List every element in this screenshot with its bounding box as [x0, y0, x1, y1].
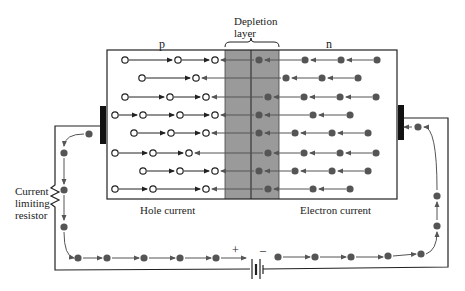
- hole: [139, 75, 145, 81]
- p-region-label: p: [159, 38, 165, 50]
- depletion-layer: [225, 38, 279, 199]
- circuit-flow-arrow: [64, 134, 84, 146]
- hole: [167, 94, 173, 100]
- resistor-label-line2: limiting: [15, 197, 50, 209]
- electron: [264, 93, 271, 100]
- electron: [354, 74, 361, 81]
- circuit-electron: [60, 223, 67, 230]
- circuit-flow-arrow: [426, 232, 437, 254]
- wire-right: [263, 118, 448, 269]
- hole: [112, 150, 118, 156]
- electron: [300, 149, 307, 156]
- electron: [255, 167, 262, 174]
- circuit-electron: [60, 186, 67, 193]
- right-terminal: [398, 105, 404, 140]
- electron: [337, 56, 344, 63]
- circuit-electron: [384, 252, 391, 259]
- n-region-label: n: [326, 38, 332, 50]
- circuit-electron: [140, 254, 147, 261]
- circuit-electron: [417, 250, 424, 257]
- circuit-electron: [433, 222, 440, 229]
- electron: [255, 129, 262, 136]
- hole: [122, 94, 128, 100]
- circuit-electron: [433, 192, 440, 199]
- hole: [203, 130, 209, 136]
- electron: [336, 93, 343, 100]
- electron: [364, 129, 371, 136]
- battery-minus-sign: –: [260, 244, 266, 256]
- left-terminal: [100, 106, 106, 144]
- resistor-label-line3: resistor: [15, 209, 47, 221]
- pn-junction-diagram: p n Depletion layer Hole current Electro…: [0, 0, 465, 291]
- hole-current-label: Hole current: [140, 204, 195, 216]
- electron: [372, 93, 379, 100]
- hole: [150, 186, 156, 192]
- hole: [122, 57, 128, 63]
- circuit-flow-arrow: [64, 232, 74, 258]
- electron: [318, 74, 325, 81]
- electron: [301, 56, 308, 63]
- electron: [346, 185, 353, 192]
- electron: [300, 93, 307, 100]
- circuit-electron: [347, 253, 354, 260]
- electron: [364, 167, 371, 174]
- depletion-brace: [225, 38, 279, 47]
- resistor-label-line1: Current: [15, 185, 49, 197]
- circuit-electron: [176, 254, 183, 261]
- depletion-label-line1: Depletion: [234, 15, 277, 27]
- circuit-electron: [311, 253, 318, 260]
- hole: [112, 186, 118, 192]
- depletion-region: [225, 50, 279, 199]
- electron: [328, 167, 335, 174]
- electron: [372, 149, 379, 156]
- electron-current-label: Electron current: [300, 204, 371, 216]
- circuit-flow-arrow: [393, 254, 416, 256]
- electron: [255, 111, 262, 118]
- battery-plus-sign: +: [232, 244, 239, 256]
- electron: [264, 185, 271, 192]
- hole: [140, 168, 146, 174]
- hole: [212, 168, 218, 174]
- hole: [186, 150, 192, 156]
- electron: [309, 111, 316, 118]
- hole: [168, 130, 174, 136]
- electron: [255, 56, 262, 63]
- hole: [193, 75, 199, 81]
- electron: [328, 129, 335, 136]
- hole: [212, 112, 218, 118]
- circuit-electron: [74, 254, 81, 261]
- hole: [140, 112, 146, 118]
- electron: [373, 56, 380, 63]
- hole: [175, 57, 181, 63]
- hole: [177, 112, 183, 118]
- electron: [282, 74, 289, 81]
- circuit-electron: [60, 149, 67, 156]
- electron: [291, 167, 298, 174]
- hole: [150, 150, 156, 156]
- electron: [309, 185, 316, 192]
- electron: [336, 149, 343, 156]
- hole: [131, 130, 137, 136]
- circuit-electron: [103, 254, 110, 261]
- hole: [112, 112, 118, 118]
- depletion-label-line2: layer: [234, 27, 256, 39]
- electron: [264, 149, 271, 156]
- hole: [203, 94, 209, 100]
- circuit-electron: [414, 123, 421, 130]
- circuit-electron: [212, 254, 219, 261]
- circuit-electron: [85, 130, 92, 137]
- hole: [212, 57, 218, 63]
- hole: [203, 186, 209, 192]
- wire-left-bottom: [51, 126, 250, 270]
- hole: [177, 168, 183, 174]
- circuit-flow-arrow: [424, 127, 437, 190]
- circuit-electron: [274, 253, 281, 260]
- electron: [291, 129, 298, 136]
- electron: [346, 111, 353, 118]
